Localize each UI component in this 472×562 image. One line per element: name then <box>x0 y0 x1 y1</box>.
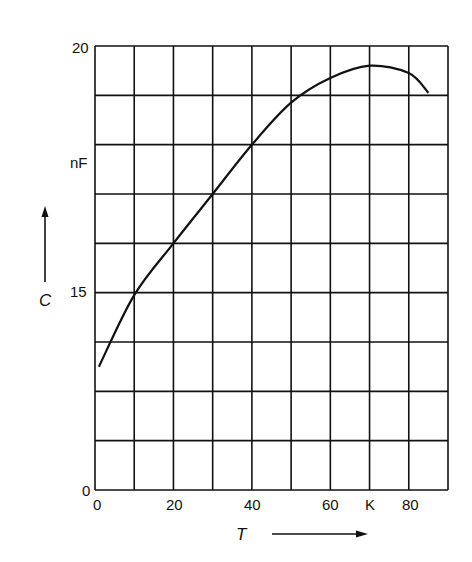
x-axis-label: T <box>236 525 248 544</box>
x-axis-arrow-icon <box>272 531 368 538</box>
x-tick-80: 80 <box>402 496 419 513</box>
x-unit-label: K <box>365 496 375 513</box>
plot-grid <box>95 46 448 490</box>
capacitance-curve <box>99 66 429 367</box>
y-tick-15: 15 <box>70 283 87 300</box>
y-axis-label: C <box>39 291 52 310</box>
y-axis-arrow-icon <box>42 206 49 282</box>
y-tick-0: 0 <box>82 482 90 499</box>
y-tick-20: 20 <box>72 39 89 56</box>
capacitance-temperature-chart: 20 nF 15 0 C 0 20 40 60 K 80 T <box>0 0 472 562</box>
x-tick-40: 40 <box>244 496 261 513</box>
x-tick-60: 60 <box>322 496 339 513</box>
x-tick-20: 20 <box>166 496 183 513</box>
x-tick-0: 0 <box>93 496 101 513</box>
y-unit-label: nF <box>70 154 88 171</box>
